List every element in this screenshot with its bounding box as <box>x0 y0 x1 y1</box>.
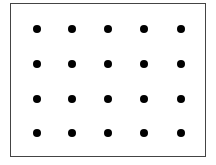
grid-dot <box>177 60 185 68</box>
grid-dot <box>68 60 76 68</box>
grid-dot <box>140 129 148 137</box>
grid-dot <box>33 129 41 137</box>
grid-dot <box>177 95 185 103</box>
grid-dot <box>33 25 41 33</box>
grid-dot <box>104 60 112 68</box>
grid-dot <box>177 25 185 33</box>
grid-dot <box>33 95 41 103</box>
grid-dot <box>104 95 112 103</box>
grid-dot <box>140 25 148 33</box>
grid-dot <box>177 129 185 137</box>
grid-dot <box>68 129 76 137</box>
grid-dot <box>68 95 76 103</box>
grid-dot <box>68 25 76 33</box>
grid-dot <box>104 25 112 33</box>
grid-dot <box>104 129 112 137</box>
grid-dot <box>140 60 148 68</box>
grid-dot <box>140 95 148 103</box>
grid-dot <box>33 60 41 68</box>
